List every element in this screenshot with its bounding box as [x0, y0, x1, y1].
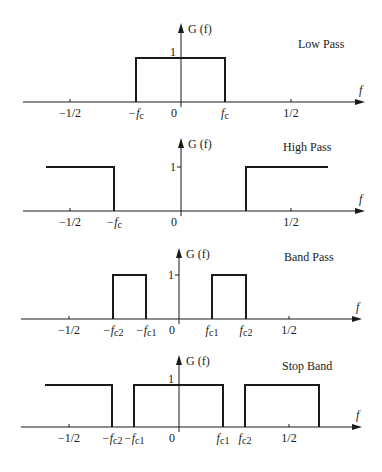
x-tick-label: 1/2	[283, 215, 298, 229]
passband-segment	[212, 275, 246, 319]
x-tick-label: −1/2	[58, 431, 80, 445]
origin-label: 0	[171, 215, 177, 229]
cutoff-frequency-label: −fc1	[124, 431, 145, 446]
origin-label: 0	[171, 106, 177, 120]
y-axis-label: G (f)	[186, 354, 210, 368]
panel-title: Stop Band	[282, 359, 332, 373]
x-tick-label: −1/2	[59, 215, 81, 229]
y-axis-arrow-icon	[176, 248, 182, 258]
cutoff-frequency-label: fc1	[217, 431, 230, 446]
unit-level-label: 1	[170, 160, 176, 174]
origin-label: 0	[169, 431, 175, 445]
x-axis-label: f	[356, 408, 361, 422]
x-axis-arrow-icon	[355, 99, 365, 105]
unit-level-label: 1	[168, 372, 174, 386]
filter-response-figure: G (f)f10−1/21/2−fcfcLow PassG (f)f10−1/2…	[0, 0, 382, 472]
x-axis-arrow-icon	[355, 208, 365, 214]
cutoff-frequency-label: −fc1	[136, 323, 157, 338]
x-tick-label: 1/2	[281, 323, 296, 337]
cutoff-frequency-label: fc1	[206, 323, 219, 338]
cutoff-frequency-label: −fc	[106, 215, 122, 230]
x-axis-label: f	[356, 300, 361, 314]
x-tick-label: −1/2	[58, 323, 80, 337]
panel-title: High Pass	[283, 140, 332, 154]
passband-segment	[46, 167, 114, 211]
cutoff-frequency-label: −fc2	[102, 431, 123, 446]
panel-title: Band Pass	[284, 250, 334, 264]
y-axis-arrow-icon	[178, 23, 184, 33]
panel-band-pass: G (f)f10−1/21/2−fc2−fc1fc1fc2Band Pass	[21, 247, 362, 338]
y-axis-label: G (f)	[188, 137, 212, 151]
x-axis-label: f	[359, 192, 364, 206]
unit-level-label: 1	[168, 268, 174, 282]
panel-stop-band: G (f)f10−1/21/2−fc2−fc1fc1fc2Stop Band	[21, 354, 362, 446]
cutoff-frequency-label: fc	[221, 106, 229, 121]
y-axis-arrow-icon	[176, 355, 182, 365]
y-axis-label: G (f)	[186, 247, 210, 261]
x-axis-arrow-icon	[352, 424, 362, 430]
y-axis-label: G (f)	[188, 22, 212, 36]
panel-title: Low Pass	[298, 37, 345, 51]
passband-segment	[45, 385, 112, 427]
filter-diagrams-canvas: G (f)f10−1/21/2−fcfcLow PassG (f)f10−1/2…	[0, 0, 382, 472]
x-axis-arrow-icon	[352, 316, 362, 322]
x-axis-label: f	[359, 83, 364, 97]
x-tick-label: 1/2	[281, 431, 296, 445]
cutoff-frequency-label: −fc	[128, 106, 144, 121]
passband-segment	[113, 275, 146, 319]
cutoff-frequency-label: fc2	[239, 431, 252, 446]
passband-segment	[245, 385, 319, 427]
x-tick-label: 1/2	[283, 106, 298, 120]
panel-high-pass: G (f)f10−1/21/2−fcHigh Pass	[23, 137, 365, 230]
cutoff-frequency-label: −fc2	[103, 323, 124, 338]
passband-segment	[246, 167, 328, 211]
panel-low-pass: G (f)f10−1/21/2−fcfcLow Pass	[23, 22, 365, 121]
x-tick-label: −1/2	[59, 106, 81, 120]
unit-level-label: 1	[170, 45, 176, 59]
y-axis-arrow-icon	[178, 138, 184, 148]
cutoff-frequency-label: fc2	[240, 323, 253, 338]
origin-label: 0	[169, 323, 175, 337]
